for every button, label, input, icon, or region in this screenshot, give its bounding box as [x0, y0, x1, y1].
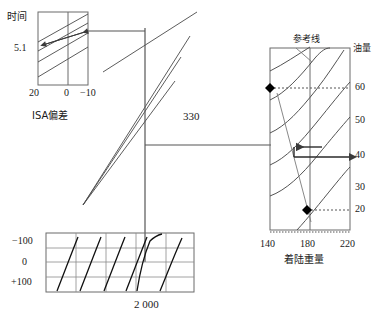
corr-curve-4 [126, 237, 147, 291]
correction-y-tick-minus100: −100 [12, 236, 33, 246]
corr-curve-1 [57, 237, 78, 291]
isa-y-axis-label: 时间 [7, 12, 27, 22]
isa-curve-group [38, 14, 88, 77]
corr-curve-5 [137, 234, 162, 291]
fuel-right-axis-label: 油量 [353, 44, 371, 53]
fuel-y-tick-20: 20 [355, 204, 365, 214]
corr-curve-3 [104, 237, 125, 291]
fuel-curve-2 [270, 48, 330, 100]
corr-curve-6 [160, 238, 182, 291]
fuel-reference-line-label: 参考线 [293, 35, 320, 44]
correction-y-tick-plus100: +100 [11, 277, 32, 287]
isa-readout-arrow-head [46, 31, 88, 44]
isa-panel-frame [38, 12, 88, 85]
entry-marker-diamond [265, 83, 275, 93]
middle-fan-panel [83, 12, 271, 262]
isa-x-tick-20: 20 [29, 88, 39, 98]
isa-caption: ISA偏差 [32, 111, 68, 121]
fuel-y-tick-40: 40 [355, 150, 365, 160]
fuel-y-tick-50: 50 [355, 115, 365, 125]
fuel-caption: 着陆重量 [284, 255, 324, 265]
fuel-curve-1 [270, 47, 310, 71]
fuel-x-tick-140: 140 [260, 239, 275, 249]
correction-x-tick-2000: 2 000 [134, 299, 159, 310]
correction-panel [46, 233, 194, 292]
middle-line-label-330: 330 [183, 111, 200, 122]
isa-curve-4 [38, 47, 88, 77]
fuel-x-tick-180: 180 [300, 239, 315, 249]
isa-x-tick-0: 0 [64, 88, 69, 98]
corr-curve-2 [80, 237, 101, 291]
isa-deviation-panel [38, 12, 88, 85]
nomograph-diagram: 时间 5.1 20 0 −10 ISA偏差 330 参考线 油量 60 50 4… [0, 0, 378, 318]
fuel-vs-landing-weight-panel [265, 46, 350, 232]
correction-y-tick-0: 0 [22, 257, 27, 267]
fan-line-2 [83, 57, 181, 205]
fuel-y-tick-60: 60 [355, 82, 365, 92]
fan-line-1 [83, 36, 190, 205]
isa-x-tick-minus10: −10 [80, 88, 96, 98]
nomograph-svg [0, 0, 378, 318]
fuel-y-tick-30: 30 [355, 182, 365, 192]
fan-line-3 [83, 81, 175, 205]
fuel-x-tick-220: 220 [340, 239, 355, 249]
upper-diagonal-line [103, 12, 197, 72]
fuel-curve-3 [270, 50, 344, 133]
isa-y-tick-label: 5.1 [14, 43, 27, 53]
